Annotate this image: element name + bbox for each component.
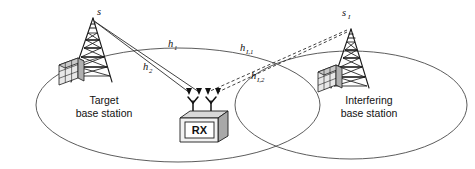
arrowhead-icon-2	[196, 88, 202, 95]
interfering-cell-label-line1: Interfering	[345, 94, 392, 106]
channel-path-h1	[94, 21, 199, 92]
channel-label-h2-subscript: 2	[149, 67, 153, 74]
target-cell-label-line2: base station	[76, 107, 133, 119]
channel-path-h2	[94, 21, 190, 93]
channel-label-hI1-symbol: h	[240, 42, 245, 53]
diagram-canvas: Target base station Interfering base sta…	[0, 0, 475, 169]
interfering-source-subscript: I	[347, 13, 351, 20]
receiver-label: RX	[192, 124, 208, 136]
interfering-source-symbol: s	[342, 7, 346, 18]
channel-label-h1-symbol: h	[168, 38, 173, 49]
interfering-cell-label-line2: base station	[341, 107, 398, 119]
channel-label-hI1-subscript: I,1	[245, 48, 253, 55]
arrowhead-icon-1	[186, 88, 192, 95]
channel-label-hI2-symbol: h	[251, 70, 256, 81]
channel-label-h1-subscript: 1	[174, 44, 177, 51]
interfering-building-icon	[318, 65, 342, 92]
target-source-symbol: s	[97, 6, 101, 17]
arrowhead-icon-3	[205, 88, 211, 95]
wireless-interference-diagram: Target base station Interfering base sta…	[0, 0, 475, 169]
channel-label-hI2-subscript: I,2	[256, 76, 265, 83]
receiver-antenna-icon-2	[206, 97, 216, 112]
receiver-antenna-icon-1	[188, 97, 198, 112]
channel-label-h2-symbol: h	[143, 61, 148, 72]
target-cell-label-line1: Target	[89, 94, 118, 106]
